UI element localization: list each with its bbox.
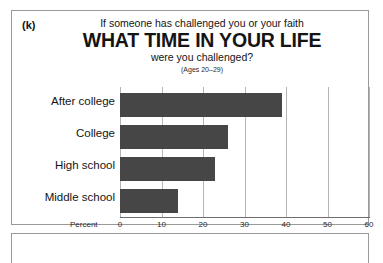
- category-label: College: [76, 127, 115, 139]
- chart-title-block: If someone has challenged you or your fa…: [52, 17, 352, 75]
- next-chart-panel: [11, 233, 369, 263]
- bar: [120, 157, 215, 181]
- chart-panel-k: (k) If someone has challenged you or you…: [11, 10, 369, 225]
- bar: [120, 93, 282, 117]
- gridline: [369, 87, 370, 217]
- chart-subtitle: (Ages 20–29): [52, 65, 352, 75]
- category-label: Middle school: [45, 191, 115, 203]
- chart-title-line3: were you challenged?: [52, 51, 352, 64]
- category-label: High school: [55, 159, 115, 171]
- x-tick-label: 50: [323, 220, 332, 229]
- category-label: After college: [51, 95, 115, 107]
- x-tick-label: 30: [240, 220, 249, 229]
- gridline: [286, 87, 287, 217]
- x-tick-label: 10: [157, 220, 166, 229]
- plot-area: [120, 87, 369, 217]
- panel-letter: (k): [22, 19, 35, 31]
- x-axis-title: Percent: [70, 220, 98, 229]
- gridline: [328, 87, 329, 217]
- x-axis-line: [120, 217, 370, 218]
- bar: [120, 125, 228, 149]
- category-axis: After college College High school Middle…: [12, 87, 115, 217]
- x-tick-label: 20: [199, 220, 208, 229]
- bar: [120, 189, 178, 213]
- x-tick-label: 0: [118, 220, 122, 229]
- x-tick-label: 40: [282, 220, 291, 229]
- x-tick-label: 60: [365, 220, 374, 229]
- chart-title-main: WHAT TIME IN YOUR LIFE: [52, 30, 352, 51]
